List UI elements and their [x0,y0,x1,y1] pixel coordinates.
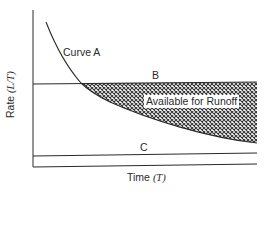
y-axis-title: Rate [4,96,16,118]
line-c [33,153,257,156]
runoff-region-label: Available for Runoff [144,95,239,108]
x-axis-label: Time (T) [127,172,166,184]
y-axis-label: Rate (L/T) [4,71,16,118]
line-b-label: B [152,70,159,81]
x-axis-unit: (T) [153,172,166,183]
runoff-region [81,82,257,143]
x-axis-title: Time [127,171,150,183]
y-axis-unit: (L/T) [5,71,16,93]
x-axis [33,164,257,167]
curve-a-label: Curve A [63,47,100,58]
line-c-label: C [140,142,148,153]
